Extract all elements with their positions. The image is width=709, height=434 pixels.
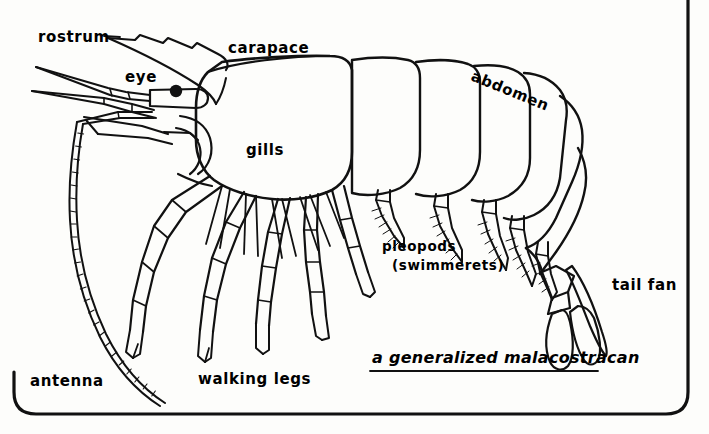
walking-leg-2 [198, 192, 256, 362]
label-eye: eye [125, 68, 157, 86]
label-antenna: antenna [30, 372, 104, 390]
diagram-page: rostrum carapace eye gills abdomen pleop… [0, 0, 709, 434]
label-tail-fan: tail fan [612, 276, 677, 294]
walking-legs [126, 176, 375, 362]
antennule-lower [32, 91, 156, 118]
label-gills: gills [246, 141, 284, 159]
walking-leg-4 [304, 194, 329, 340]
figure-caption: a generalized malacostracan [370, 348, 640, 371]
walking-leg-5 [332, 186, 375, 297]
label-pleopods: pleopods [382, 238, 456, 254]
walking-leg-1 [126, 176, 222, 358]
eye-dot [170, 85, 182, 97]
label-carapace: carapace [228, 39, 309, 57]
label-walking-legs: walking legs [198, 370, 311, 388]
antenna-flagellum [69, 112, 165, 406]
label-swimmerets: (swimmerets) [392, 257, 504, 273]
maxilliped-region [84, 116, 212, 186]
carapace-outline [196, 56, 352, 200]
walking-leg-3 [256, 198, 290, 354]
pleopod-4 [506, 216, 536, 286]
caption-text: a generalized malacostracan [372, 348, 640, 367]
malacostracan-figure: rostrum carapace eye gills abdomen pleop… [0, 0, 709, 434]
eye-stalk [150, 85, 208, 108]
label-rostrum: rostrum [38, 28, 110, 46]
